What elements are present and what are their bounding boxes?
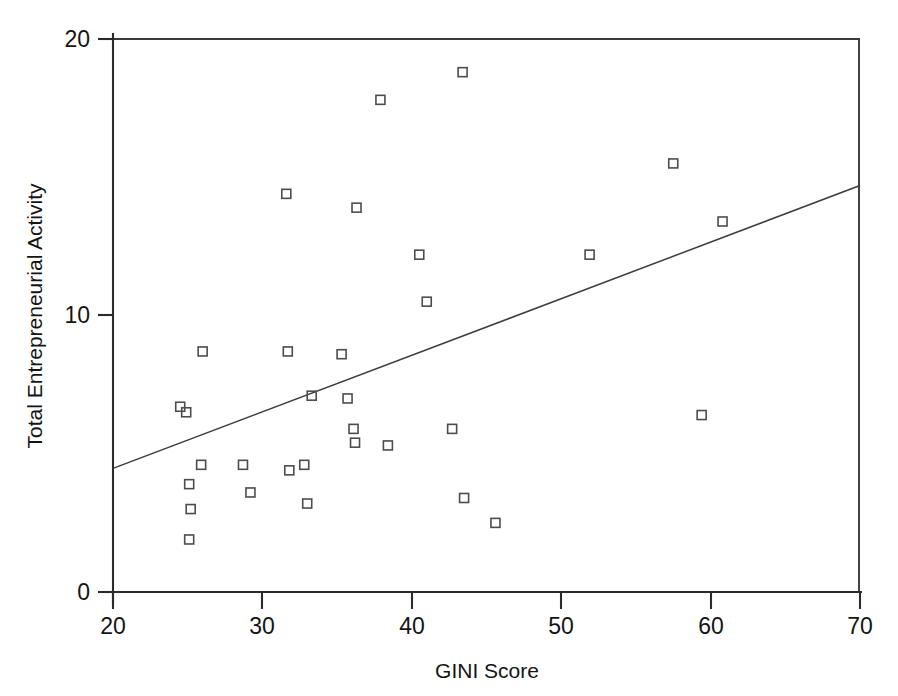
x-tick-label-70: 70 <box>847 613 873 639</box>
y-axis-title: Total Entrepreneurial Activity <box>23 183 46 448</box>
data-point-marker <box>283 347 292 356</box>
data-point-marker <box>197 460 206 469</box>
data-points-layer <box>176 68 727 544</box>
data-point-marker <box>352 203 361 212</box>
data-point-marker <box>585 250 594 259</box>
data-point-marker <box>491 518 500 527</box>
x-tick-label-30: 30 <box>249 613 275 639</box>
data-point-marker <box>383 441 392 450</box>
x-axis: 20 30 40 50 60 70 GINI Score <box>100 592 873 682</box>
data-point-marker <box>176 402 185 411</box>
y-tick-label-10: 10 <box>64 302 90 328</box>
data-point-marker <box>669 159 678 168</box>
data-point-marker <box>337 350 346 359</box>
data-point-marker <box>376 95 385 104</box>
data-point-marker <box>182 408 191 417</box>
y-tick-label-0: 0 <box>77 579 90 605</box>
x-tick-label-60: 60 <box>698 613 724 639</box>
data-point-marker <box>460 493 469 502</box>
plot-frame <box>113 39 860 592</box>
data-point-marker <box>458 68 467 77</box>
x-axis-title: GINI Score <box>435 659 539 682</box>
data-point-marker <box>422 297 431 306</box>
data-point-marker <box>343 394 352 403</box>
trend-line-layer <box>113 186 860 469</box>
data-point-marker <box>718 217 727 226</box>
data-point-marker <box>282 189 291 198</box>
data-point-marker <box>185 535 194 544</box>
data-point-marker <box>351 438 360 447</box>
data-point-marker <box>415 250 424 259</box>
data-point-marker <box>300 460 309 469</box>
y-axis: 20 10 0 Total Entrepreneurial Activity <box>23 26 113 605</box>
data-point-marker <box>448 424 457 433</box>
x-tick-label-40: 40 <box>399 613 425 639</box>
plot-canvas: 20 10 0 Total Entrepreneurial Activity 2… <box>0 0 898 696</box>
data-point-marker <box>238 460 247 469</box>
data-point-marker <box>186 505 195 514</box>
data-point-marker <box>697 411 706 420</box>
data-point-marker <box>303 499 312 508</box>
data-point-marker <box>349 424 358 433</box>
scatter-plot-figure: 20 10 0 Total Entrepreneurial Activity 2… <box>0 0 898 696</box>
data-point-marker <box>198 347 207 356</box>
data-point-marker <box>246 488 255 497</box>
regression-line <box>113 186 860 469</box>
y-tick-label-20: 20 <box>64 26 90 52</box>
data-point-marker <box>285 466 294 475</box>
data-point-marker <box>185 480 194 489</box>
x-tick-label-50: 50 <box>548 613 574 639</box>
x-tick-label-20: 20 <box>100 613 126 639</box>
